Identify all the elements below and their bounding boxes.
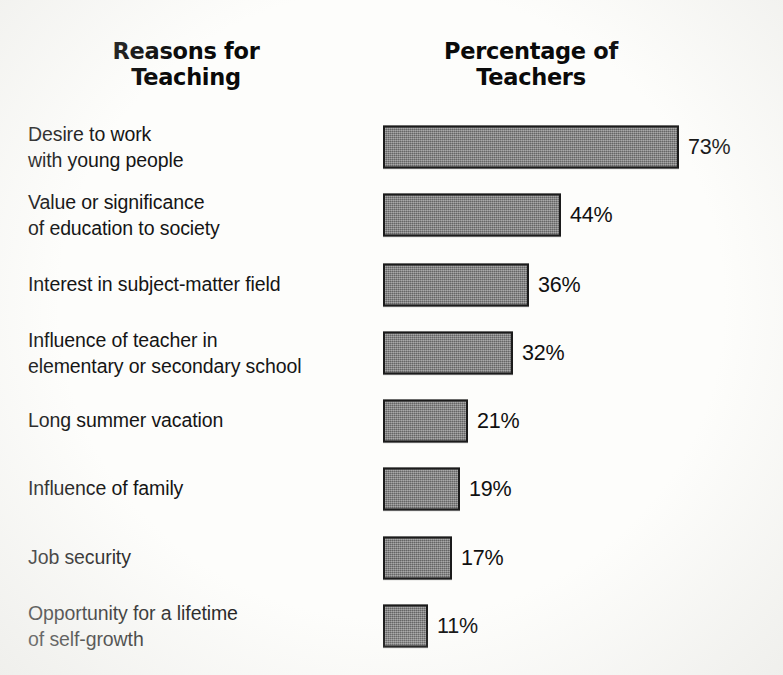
bar-group: 21% (383, 400, 519, 443)
bar-group: 19% (383, 468, 511, 511)
chart-headers: Reasons for Teaching Percentage of Teach… (0, 38, 783, 104)
reasons-header-line1: Reasons for (113, 38, 260, 64)
percentage-header-line2: Teachers (395, 64, 667, 90)
bar (383, 537, 452, 580)
bar-group: 17% (383, 537, 503, 580)
category-label: Interest in subject-matter field (28, 272, 373, 298)
category-label: Value or significance of education to so… (28, 190, 373, 241)
bar (383, 605, 428, 648)
category-label: Influence of teacher in elementary or se… (28, 328, 373, 379)
bar-group: 11% (383, 605, 478, 648)
bar (383, 400, 468, 443)
chart-page: Reasons for Teaching Percentage of Teach… (0, 0, 783, 675)
chart-row: Opportunity for a lifetime of self-growt… (0, 599, 783, 653)
category-label: Job security (28, 545, 373, 571)
bar-group: 32% (383, 332, 564, 375)
bar-value-label: 44% (570, 204, 612, 226)
bar (383, 332, 513, 375)
chart-row: Desire to work with young people73% (0, 120, 783, 174)
category-label: Opportunity for a lifetime of self-growt… (28, 601, 373, 652)
bar-value-label: 73% (688, 136, 730, 158)
bar (383, 126, 679, 169)
bar-value-label: 21% (477, 410, 519, 432)
horizontal-bar-chart: Desire to work with young people73%Value… (0, 112, 783, 657)
bar (383, 194, 561, 237)
chart-row: Interest in subject-matter field36% (0, 258, 783, 312)
reasons-header-line2: Teaching (40, 64, 332, 90)
chart-row: Influence of teacher in elementary or se… (0, 326, 783, 380)
bar-value-label: 19% (469, 478, 511, 500)
bar-value-label: 36% (538, 274, 580, 296)
percentage-of-teachers-header: Percentage of Teachers (395, 38, 667, 90)
bar-value-label: 17% (461, 547, 503, 569)
chart-row: Influence of family19% (0, 462, 783, 516)
category-label: Influence of family (28, 476, 373, 502)
bar-value-label: 32% (522, 342, 564, 364)
category-label: Long summer vacation (28, 408, 373, 434)
percentage-header-line1: Percentage of (444, 38, 618, 64)
bar-value-label: 11% (437, 615, 478, 637)
category-label: Desire to work with young people (28, 122, 373, 173)
chart-row: Job security17% (0, 531, 783, 585)
bar-group: 44% (383, 194, 612, 237)
bar-group: 73% (383, 126, 730, 169)
bar (383, 468, 460, 511)
reasons-for-teaching-header: Reasons for Teaching (40, 38, 332, 90)
chart-row: Long summer vacation21% (0, 394, 783, 448)
chart-row: Value or significance of education to so… (0, 188, 783, 242)
bar (383, 264, 529, 307)
bar-group: 36% (383, 264, 580, 307)
